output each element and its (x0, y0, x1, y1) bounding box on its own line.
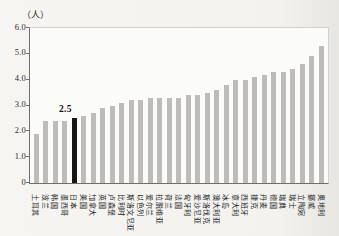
x-axis-label-text: 法国 (174, 194, 182, 209)
y-axis-tick-label: 0 (0, 178, 26, 187)
x-axis-label-text: 加拿大 (88, 194, 96, 217)
bar-美国 (81, 116, 86, 183)
x-axis-label-text: 瑞士 (288, 194, 296, 209)
x-axis-label-text: 拉脱维亚 (155, 194, 163, 224)
y-axis-tick-label: 6.0 (0, 23, 26, 32)
x-axis-label-text: 日本 (69, 194, 77, 209)
x-axis-label-text: 瑞典 (278, 194, 286, 209)
bar-墨西哥 (62, 121, 67, 183)
bar-斯洛文尼亚 (129, 100, 134, 183)
x-axis-label-text: 韩国 (50, 194, 58, 209)
x-axis-label-text: 爱尔兰 (145, 194, 153, 217)
bar-拉脱维亚 (157, 98, 162, 183)
bar-冰岛 (224, 85, 229, 183)
x-axis-label-text: 卢森堡 (107, 194, 115, 217)
y-axis-tick-label: 1.0 (0, 152, 26, 161)
bar-日本 (72, 118, 77, 183)
x-axis-label-text: 英国 (98, 194, 106, 209)
bar-斯洛伐克 (205, 93, 210, 183)
y-axis-tick-label: 4.0 (0, 74, 26, 83)
y-axis-tick-mark (26, 79, 29, 80)
x-axis-label-text: 美国 (79, 194, 87, 209)
bar-韩国 (53, 121, 58, 183)
x-axis-label-text: 意大利 (231, 194, 239, 217)
bar-土耳其 (34, 134, 39, 183)
x-axis-label-text: 斯洛伐克 (202, 194, 210, 224)
x-axis-label-text: 斯洛文尼亚 (126, 194, 134, 232)
y-axis-unit-label: （人） (22, 8, 49, 21)
x-axis-label-text: 爱沙尼亚 (193, 194, 201, 224)
y-axis-tick-mark (26, 27, 29, 28)
bar-瑞典 (281, 72, 286, 183)
bar-卢森堡 (110, 106, 115, 184)
bar-澳大利亚 (214, 90, 219, 183)
x-axis-label-text: 比利时 (117, 194, 125, 217)
plot-area (29, 27, 329, 184)
y-axis-tick-mark (26, 53, 29, 54)
bar-丹麦 (262, 75, 267, 184)
x-axis-label-text: 奥地利 (317, 194, 325, 217)
x-axis-label-text: 冰岛 (221, 194, 229, 209)
x-axis-label-text: 墨西哥 (60, 194, 68, 217)
x-axis-label-text: 波兰 (41, 194, 49, 209)
y-axis-tick-mark (26, 156, 29, 157)
bar-以色列 (138, 100, 143, 183)
x-axis-label-text: 挪威 (307, 194, 315, 209)
bar-英国 (100, 108, 105, 183)
y-axis-tick-mark (26, 105, 29, 106)
x-axis-label-text: 德国 (269, 194, 277, 209)
bar-加拿大 (91, 113, 96, 183)
highlight-value-label: 2.5 (59, 104, 72, 114)
bar-德国 (271, 72, 276, 183)
bar-瑞士 (290, 69, 295, 183)
x-axis-label-text: 荷兰 (164, 194, 172, 209)
y-axis-tick-mark (26, 130, 29, 131)
bar-挪威 (309, 56, 314, 183)
bar-爱尔兰 (148, 98, 153, 183)
bar-西班牙 (243, 80, 248, 183)
bar-荷兰 (167, 98, 172, 183)
y-axis-tick-mark (26, 182, 29, 183)
y-axis-tick-label: 2.0 (0, 126, 26, 135)
x-axis-label-text: 丹麦 (259, 194, 267, 209)
bar-立陶宛 (300, 64, 305, 183)
x-axis-label-text: 澳大利亚 (212, 194, 220, 224)
x-axis-label-text: 西班牙 (240, 194, 248, 217)
bar-奥地利 (319, 46, 324, 183)
bar-匈牙利 (186, 95, 191, 183)
bar-chart-figure: （人） 01.02.03.04.05.06.0 土耳其波兰韩国墨西哥日本美国加拿… (0, 0, 339, 236)
bar-比利时 (119, 103, 124, 183)
bar-意大利 (233, 80, 238, 183)
y-axis-tick-label: 5.0 (0, 48, 26, 57)
x-axis-label-text: 捷克 (250, 194, 258, 209)
x-axis-label-text: 匈牙利 (183, 194, 191, 217)
x-axis-label-text: 土耳其 (31, 194, 39, 217)
bar-波兰 (43, 121, 48, 183)
x-axis-label-text: 立陶宛 (297, 194, 305, 217)
bar-捷克 (252, 77, 257, 183)
bar-爱沙尼亚 (195, 95, 200, 183)
bar-法国 (176, 98, 181, 183)
y-axis-tick-label: 3.0 (0, 100, 26, 109)
x-axis-label-text: 以色列 (136, 194, 144, 217)
